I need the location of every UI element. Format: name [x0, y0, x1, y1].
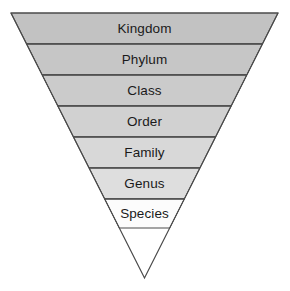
band-label-species: Species — [120, 206, 169, 221]
pyramid-canvas: Kingdom Phylum Class Order Family Genus … — [0, 0, 290, 291]
band-label-phylum: Phylum — [122, 52, 168, 67]
band-label-family: Family — [124, 145, 164, 160]
band-label-order: Order — [127, 114, 162, 129]
band-label-kingdom: Kingdom — [118, 21, 172, 36]
band-label-genus: Genus — [124, 176, 164, 191]
band-label-class: Class — [127, 83, 161, 98]
taxonomy-pyramid-diagram: Kingdom Phylum Class Order Family Genus … — [0, 0, 290, 291]
